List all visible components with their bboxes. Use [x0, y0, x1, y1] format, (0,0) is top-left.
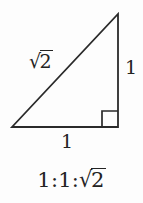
ratio-prefix: 1:1: [37, 168, 79, 192]
sqrt-symbol-hypotenuse: √2 [29, 50, 53, 71]
radicand-value: 2 [91, 168, 106, 191]
triangle-outline [12, 14, 118, 127]
sqrt-symbol-caption: √2 [79, 168, 106, 191]
radical-sign-icon: √ [29, 52, 41, 72]
vertical-leg-label: 1 [125, 58, 137, 77]
hypotenuse-label: √2 [29, 50, 53, 71]
ratio-caption: 1:1:√2 [0, 168, 143, 191]
base-leg-label: 1 [61, 132, 73, 151]
triangle-diagram: √2 1 1 1:1:√2 [0, 0, 143, 203]
radical-sign-icon: √ [79, 169, 93, 191]
right-angle-square-icon [102, 111, 118, 127]
radicand-value: 2 [40, 50, 53, 71]
